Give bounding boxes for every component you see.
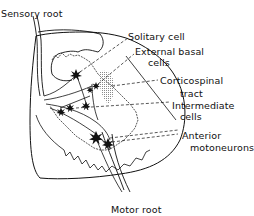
anterior-motoneuron-icon bbox=[89, 131, 103, 145]
label-corticospinal-line1: Corticospinal bbox=[160, 76, 223, 86]
leader-solitary bbox=[80, 38, 128, 72]
leader-corticospinal bbox=[112, 80, 158, 86]
label-sensory-root: Sensory root bbox=[1, 9, 62, 19]
label-solitary-cell: Solitary cell bbox=[128, 32, 185, 42]
label-intermediate-line2: cells bbox=[180, 112, 202, 122]
intermediate-cell-icon bbox=[66, 104, 75, 113]
label-corticospinal-line2: tract bbox=[180, 89, 203, 99]
dorsal-horn-outline bbox=[38, 30, 103, 81]
intermediate-cell-icon bbox=[57, 108, 66, 117]
intermediate-cell-icon bbox=[82, 102, 91, 111]
motor-root-line-b bbox=[112, 134, 130, 192]
label-external-basal-line1: External basal bbox=[135, 47, 204, 57]
corticospinal-stipple bbox=[100, 71, 115, 104]
grey-matter-outline bbox=[50, 53, 138, 150]
leader-anterior-2 bbox=[110, 130, 178, 138]
label-anterior-line1: Anterior bbox=[182, 131, 221, 141]
fibre bbox=[44, 74, 78, 96]
label-motor-root: Motor root bbox=[111, 205, 162, 215]
fibre bbox=[92, 84, 98, 120]
leader-intermediate bbox=[76, 102, 170, 108]
fibre bbox=[50, 108, 110, 150]
label-anterior-line2: motoneurons bbox=[190, 143, 254, 153]
label-intermediate-line1: Intermediate bbox=[172, 101, 235, 111]
leader-external-basal bbox=[98, 54, 134, 84]
leader-anterior bbox=[112, 134, 178, 142]
label-external-basal-line2: cells bbox=[148, 58, 170, 68]
